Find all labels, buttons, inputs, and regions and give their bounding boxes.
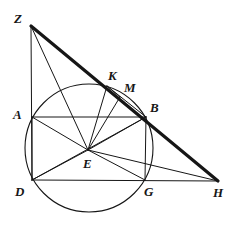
geometry-figure: ZADKMBEGH: [0, 0, 232, 229]
geometry-canvas: [0, 0, 232, 229]
segment-E-G: [88, 150, 145, 180]
point-label-d: D: [15, 185, 24, 198]
segment-Z-E: [31, 26, 88, 150]
point-label-h: H: [213, 186, 223, 199]
point-label-b: B: [150, 101, 159, 114]
point-label-z: Z: [14, 12, 22, 25]
thick-segment-layer: [31, 26, 218, 181]
segment-E-M: [88, 97, 120, 150]
segment-Z-H: [31, 26, 218, 181]
segment-B-G: [145, 117, 146, 180]
point-label-a: A: [13, 108, 22, 121]
point-label-g: G: [144, 185, 153, 198]
segment-E-A: [32, 117, 88, 150]
point-label-e: E: [83, 157, 92, 170]
segment-D-H: [32, 180, 218, 181]
point-label-m: M: [124, 81, 136, 94]
point-label-k: K: [108, 69, 117, 82]
